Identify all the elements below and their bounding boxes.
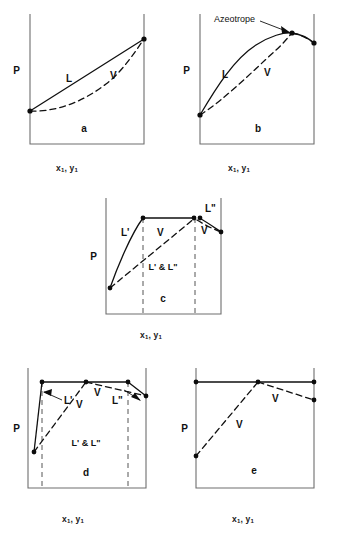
panel-c-liquid-double-label: L" — [205, 203, 216, 214]
panel-b: Azeotrope P L V b — [192, 12, 332, 162]
panel-c-point-plateau-left — [141, 216, 146, 221]
panel-b-point-right — [311, 40, 316, 45]
panel-e-x-sub2: 1 — [251, 518, 255, 524]
panel-c-point-plateau-right2 — [198, 216, 203, 221]
panel-e-vapor2-label: V — [272, 393, 279, 404]
panel-c-liquid-prime-label: L' — [121, 227, 130, 238]
panel-d-liquid-prime-label: L' — [64, 395, 73, 406]
panel-b-x-sub2: 1 — [247, 167, 251, 173]
panel-a-letter: a — [81, 123, 87, 134]
panel-a-point-left — [27, 108, 32, 113]
panel-c-point-left — [108, 286, 113, 291]
panel-b-liquid-line — [200, 33, 292, 115]
panel-a-vapor-label: V — [110, 70, 117, 81]
panel-d-x-sub2: 1 — [81, 518, 85, 524]
panel-b-y-axis-label: P — [183, 65, 190, 76]
panel-e-point-top-right — [312, 380, 317, 385]
panel-c-plot: P L' V L" V L' & L" c — [95, 196, 235, 326]
panel-c-letter: c — [160, 293, 166, 304]
panel-e: P V V e — [186, 366, 336, 511]
panel-a-x-axis-label: x1, y1 — [56, 163, 78, 173]
panel-d-point-left — [32, 450, 37, 455]
panel-d-y-axis-label: P — [13, 423, 20, 434]
panel-b-vapor-line-right — [292, 33, 314, 43]
panel-b-azeotrope-label: Azeotrope — [214, 14, 255, 24]
panel-b-liquid-label: L — [222, 69, 228, 80]
panel-e-y-axis-label: P — [181, 423, 188, 434]
panel-e-point-right — [312, 398, 317, 403]
panel-d-point-peak — [84, 380, 89, 385]
panel-b-vapor-label: V — [264, 67, 271, 78]
panel-d-region-label: L' & L" — [72, 438, 101, 448]
panel-a-x-sub2: 1 — [75, 167, 79, 173]
panel-c-point-right — [219, 230, 224, 235]
panel-e-plot: P V V e — [186, 366, 336, 511]
panel-c-vapor2-label: V — [201, 225, 208, 236]
panel-e-letter: e — [251, 465, 257, 476]
panel-d-x-axis-label: x1, y1 — [62, 514, 84, 524]
panel-a-liquid-label: L — [66, 73, 72, 84]
panel-e-x-axis-label: x1, y1 — [232, 514, 254, 524]
panel-b-liquid-line-right — [292, 33, 314, 43]
panel-b-vapor-line — [200, 33, 292, 115]
panel-d: P L' V V L" L' & L" d — [18, 366, 168, 511]
panel-c-x-sub2: 1 — [159, 334, 163, 340]
panel-e-x-sep: , y — [240, 514, 250, 524]
panel-b-annotation-arrowhead — [281, 26, 291, 33]
panel-e-point-bottom-left — [194, 454, 199, 459]
panel-a-x-sep: , y — [64, 163, 74, 173]
panel-d-point-plateau-left — [40, 380, 45, 385]
panel-d-vapor2-label: V — [94, 387, 101, 398]
panel-a-plot: P L V a — [22, 12, 162, 162]
panel-d-x-sep: , y — [70, 514, 80, 524]
panel-b-x-axis-label: x1, y1 — [228, 163, 250, 173]
panel-a: P L V a — [22, 12, 162, 162]
panel-b-point-left — [197, 112, 202, 117]
panel-c: P L' V L" V L' & L" c — [95, 196, 235, 326]
panel-e-vapor-line-right — [258, 382, 314, 400]
panel-a-frame — [30, 14, 144, 144]
panel-c-point-plateau-right — [192, 216, 197, 221]
panel-c-x-sep: , y — [148, 330, 158, 340]
panel-b-plot: Azeotrope P L V b — [192, 12, 332, 162]
panel-d-liquid-prime-arrowhead — [43, 389, 52, 396]
panel-c-vapor-label: V — [157, 227, 164, 238]
panel-d-point-plateau-right — [126, 380, 131, 385]
panel-a-point-right — [141, 36, 146, 41]
panel-d-letter: d — [83, 467, 89, 478]
panel-e-vapor-line — [196, 382, 258, 456]
panel-d-point-right — [144, 394, 149, 399]
panel-e-point-top-left — [194, 380, 199, 385]
panel-e-point-peak — [256, 380, 261, 385]
panel-c-y-axis-label: P — [90, 251, 97, 262]
panel-c-region-label: L' & L" — [149, 262, 178, 272]
panel-d-vapor-label: V — [76, 399, 83, 410]
panel-d-liquid-prime-line — [34, 382, 42, 452]
panel-b-x-sep: , y — [236, 163, 246, 173]
panel-b-letter: b — [255, 123, 261, 134]
panel-e-vapor-label: V — [236, 419, 243, 430]
panel-d-liquid-double-label: L" — [112, 395, 123, 406]
panel-a-y-axis-label: P — [13, 65, 20, 76]
panel-c-x-axis-label: x1, y1 — [140, 330, 162, 340]
phase-diagram-figure: P L V a x1, y1 Azeotrope P L V b x1, — [0, 0, 340, 540]
panel-a-liquid-line — [30, 39, 144, 111]
panel-d-plot: P L' V V L" L' & L" d — [18, 366, 168, 511]
